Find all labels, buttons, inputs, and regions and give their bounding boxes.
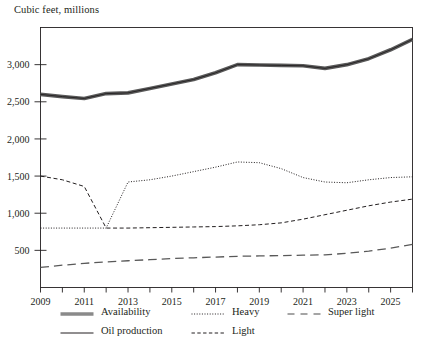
legend-label-light: Light: [232, 325, 255, 337]
series-line-super-light: [41, 244, 413, 267]
chart-figure: Cubic feet, millions 5001,0001,5002,0002…: [0, 0, 435, 342]
legend-label-oil-production: Oil production: [101, 325, 163, 337]
legend-label-super-light: Super light: [328, 306, 374, 318]
legend-swatch-light: [191, 325, 225, 337]
legend-label-availability: Availability: [101, 306, 150, 318]
x-axis-tick-label: 2009: [31, 296, 51, 307]
legend-swatch-availability: [60, 306, 94, 318]
series-line-light: [41, 176, 413, 228]
y-axis-tick-label: 1,000: [7, 208, 30, 219]
legend-row-2: Oil production Light: [60, 321, 430, 340]
legend-item-oil-production: Oil production: [60, 321, 191, 340]
legend-swatch-super-light: [287, 306, 321, 318]
series-line-heavy: [41, 162, 413, 228]
series-line-oil-production: [41, 39, 413, 98]
legend-item-super-light: Super light: [287, 302, 407, 321]
legend-item-empty: [287, 321, 407, 340]
legend-item-light: Light: [191, 321, 287, 340]
legend-item-availability: Availability: [60, 302, 191, 321]
line-chart-plot: 5001,0001,5002,0002,5003,000200920112013…: [0, 0, 435, 342]
legend-item-heavy: Heavy: [191, 302, 287, 321]
y-axis-tick-label: 500: [15, 245, 30, 256]
legend-swatch-oil-production: [60, 325, 94, 337]
chart-legend: Availability Heavy Super light Oil produ…: [60, 302, 430, 340]
legend-row-1: Availability Heavy Super light: [60, 302, 430, 321]
y-axis-tick-label: 1,500: [7, 171, 30, 182]
plot-frame: [41, 28, 413, 288]
y-axis-tick-label: 2,500: [7, 96, 30, 107]
legend-swatch-heavy: [191, 306, 225, 318]
y-axis-tick-label: 3,000: [7, 59, 30, 70]
legend-label-heavy: Heavy: [232, 306, 259, 318]
y-axis-tick-label: 2,000: [7, 134, 30, 145]
